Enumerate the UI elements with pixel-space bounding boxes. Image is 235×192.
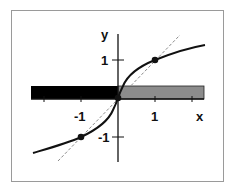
point-pos1 bbox=[152, 57, 159, 64]
y-tick-label-pos1: 1 bbox=[101, 53, 108, 68]
chart-svg: y x -1 1 1 -1 bbox=[0, 0, 235, 192]
positive-domain-bar bbox=[118, 86, 204, 99]
point-origin bbox=[115, 95, 122, 102]
y-axis-label: y bbox=[101, 27, 109, 42]
x-tick-label-pos1: 1 bbox=[151, 109, 158, 124]
y-tick-label-neg1: -1 bbox=[98, 130, 110, 145]
x-tick-label-neg1: -1 bbox=[74, 109, 86, 124]
x-axis-label: x bbox=[196, 109, 204, 124]
point-neg1 bbox=[78, 134, 85, 141]
